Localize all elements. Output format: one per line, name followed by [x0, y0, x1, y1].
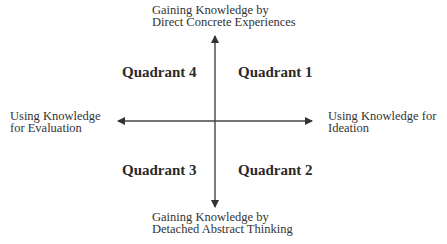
- quadrant-2-label: Quadrant 2: [238, 162, 313, 179]
- bottom-axis-label: Gaining Knowledge by Detached Abstract T…: [152, 211, 293, 235]
- left-axis-label-line2: for Evaluation: [10, 122, 101, 134]
- right-axis-label-line2: Ideation: [328, 122, 436, 134]
- quadrant-1-label: Quadrant 1: [238, 64, 313, 81]
- quadrant-3-label: Quadrant 3: [122, 162, 197, 179]
- right-axis-label: Using Knowledge for Ideation: [328, 110, 436, 134]
- top-axis-label: Gaining Knowledge by Direct Concrete Exp…: [152, 4, 296, 28]
- bottom-axis-label-line2: Detached Abstract Thinking: [152, 223, 293, 235]
- quadrant-4-label: Quadrant 4: [122, 64, 197, 81]
- left-axis-label: Using Knowledge for Evaluation: [10, 110, 101, 134]
- top-axis-label-line2: Direct Concrete Experiences: [152, 16, 296, 28]
